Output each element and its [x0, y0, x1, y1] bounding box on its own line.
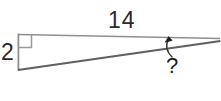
triangle-top-side: [18, 35, 220, 39]
unknown-angle-label: ?: [166, 55, 178, 77]
triangle-hypotenuse: [18, 41, 221, 70]
side-length-label-vertical: 2: [1, 41, 14, 64]
right-angle-marker-icon: [19, 35, 32, 48]
geometry-figure: 2 14 ?: [0, 0, 221, 101]
side-length-label-horizontal: 14: [108, 9, 136, 32]
